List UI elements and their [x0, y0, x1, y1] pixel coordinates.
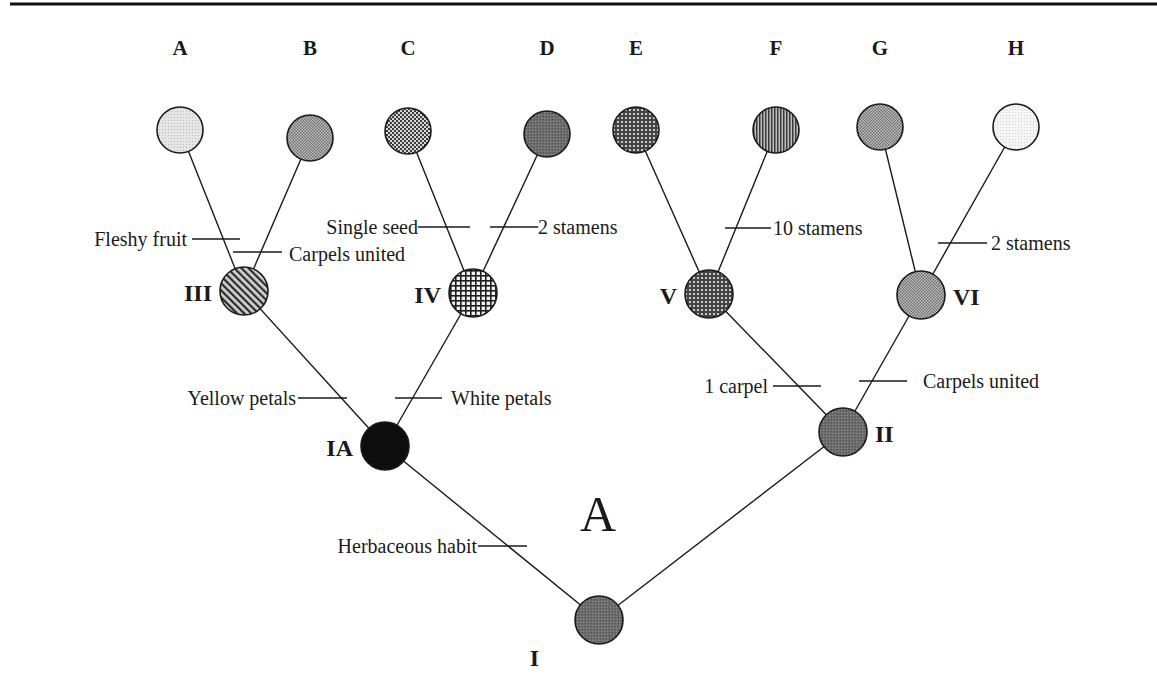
edge-IV-C — [408, 131, 473, 293]
panel-label: A — [580, 486, 616, 542]
character-label: Carpels united — [923, 370, 1039, 393]
tip-node-H — [993, 104, 1039, 150]
tip-node-A — [157, 107, 203, 153]
edge-IV-D — [473, 134, 547, 293]
node-label: IA — [326, 435, 353, 461]
character-label: White petals — [451, 387, 552, 410]
tip-label: C — [400, 36, 415, 60]
edge-V-E — [636, 130, 709, 294]
tip-node-F — [753, 107, 799, 153]
character-label: Single seed — [326, 216, 418, 239]
character-label: Carpels united — [289, 243, 405, 266]
internal-node-IA — [361, 422, 409, 470]
tip-label: H — [1008, 36, 1024, 60]
tip-label: B — [303, 36, 317, 60]
character-label: 2 stamens — [991, 232, 1071, 254]
node-label: III — [184, 280, 212, 306]
character-label: Yellow petals — [187, 387, 296, 410]
internal-node-VI — [897, 271, 945, 319]
tip-node-E — [613, 107, 659, 153]
internal-node-I — [575, 596, 623, 644]
internal-node-II — [819, 408, 867, 456]
edge-III-A — [180, 130, 244, 291]
edge-VI-G — [880, 127, 921, 295]
character-label: 2 stamens — [538, 216, 618, 238]
tip-label: D — [539, 36, 554, 60]
node-label: V — [660, 283, 678, 309]
character-label: 10 stamens — [773, 217, 863, 239]
character-label: 1 carpel — [704, 375, 768, 398]
tip-node-C — [385, 108, 431, 154]
node-label: IV — [414, 282, 441, 308]
tip-node-G — [857, 104, 903, 150]
tip-label: A — [172, 36, 188, 60]
tip-label: G — [872, 36, 888, 60]
tree-edges — [180, 127, 1016, 620]
edge-I-IA — [385, 446, 599, 620]
tip-node-D — [524, 111, 570, 157]
edge-IA-IV — [385, 293, 473, 446]
tip-label: E — [629, 36, 643, 60]
tip-label: F — [770, 36, 783, 60]
tip-node-B — [287, 115, 333, 161]
edge-VI-H — [921, 127, 1016, 295]
character-label: Herbaceous habit — [338, 535, 478, 557]
edge-III-B — [244, 138, 310, 291]
node-label: I — [530, 645, 539, 671]
edge-IA-III — [244, 291, 385, 446]
edge-V-F — [709, 130, 776, 294]
node-label: VI — [953, 284, 980, 310]
edge-I-II — [599, 432, 843, 620]
internal-node-III — [220, 267, 268, 315]
internal-node-IV — [449, 269, 497, 317]
phylogenetic-tree: Fleshy fruitCarpels unitedSingle seed2 s… — [0, 0, 1157, 683]
internal-node-V — [685, 270, 733, 318]
tip-labels: ABCDEFGH — [172, 36, 1024, 60]
character-label: Fleshy fruit — [94, 228, 187, 251]
node-label: II — [875, 421, 894, 447]
edge-II-V — [709, 294, 843, 432]
